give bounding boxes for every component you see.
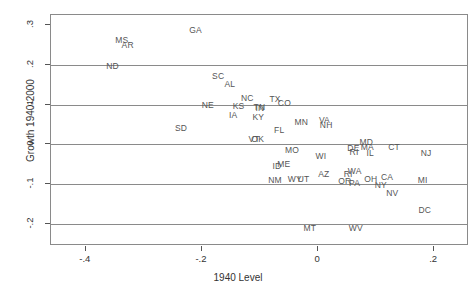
data-point-label: MO	[285, 145, 299, 155]
data-point-label: CO	[278, 98, 291, 108]
x-tick-mark	[85, 246, 86, 251]
y-tick-label: -.2	[18, 217, 42, 229]
data-point-label: SC	[212, 71, 224, 81]
data-point-label: OK	[251, 134, 264, 144]
y-tick-label: .1	[18, 98, 42, 110]
data-point-label: DC	[419, 205, 432, 215]
data-point-label: PA	[349, 178, 360, 188]
plot-area: GAMSARNDSCALNCTXCONEKSTNINIAKYMNVANHSDFL…	[50, 14, 468, 245]
data-point-label: AL	[224, 79, 235, 89]
data-point-label: MI	[418, 175, 428, 185]
gridline	[51, 144, 467, 145]
x-tick-mark	[201, 246, 202, 251]
x-tick-label: 0	[314, 253, 319, 264]
data-point-label: IL	[367, 148, 375, 158]
x-tick-mark	[433, 246, 434, 251]
data-point-label: UT	[298, 174, 310, 184]
x-tick-label: .2	[429, 253, 437, 264]
gridline	[51, 224, 467, 225]
data-point-label: NJ	[421, 148, 432, 158]
data-point-label: SD	[175, 123, 187, 133]
data-point-label: WI	[316, 151, 327, 161]
data-point-label: NH	[320, 120, 333, 130]
data-point-label: NV	[386, 188, 398, 198]
data-point-label: RI	[350, 147, 359, 157]
y-tick-label: -.1	[18, 177, 42, 189]
data-point-label: WA	[348, 166, 362, 176]
data-point-label: ND	[106, 61, 119, 71]
data-point-label: WV	[349, 223, 363, 233]
data-point-label: MT	[304, 223, 317, 233]
x-tick-mark	[317, 246, 318, 251]
data-point-label: FL	[274, 125, 284, 135]
data-point-label: AR	[122, 40, 134, 50]
data-point-label: MN	[294, 117, 308, 127]
data-point-label: CT	[388, 142, 400, 152]
x-axis-title: 1940 Level	[0, 272, 476, 283]
scatter-chart: Growth 1940-2000 .3.2.10-.1-.2 GAMSARNDS…	[0, 0, 476, 300]
data-point-label: NE	[202, 100, 214, 110]
y-tick-label: .3	[18, 18, 42, 30]
data-point-label: NY	[375, 180, 387, 190]
x-tick-label: -.2	[195, 253, 206, 264]
x-tick-label: -.4	[79, 253, 90, 264]
data-point-label: ME	[277, 159, 290, 169]
data-point-label: AZ	[318, 169, 329, 179]
y-tick-label: 0	[18, 137, 42, 149]
data-point-label: NM	[268, 175, 282, 185]
gridline	[51, 184, 467, 185]
data-point-label: GA	[189, 25, 202, 35]
y-tick-label: .2	[18, 58, 42, 70]
data-point-label: IA	[229, 110, 237, 120]
data-point-label: KY	[252, 112, 264, 122]
